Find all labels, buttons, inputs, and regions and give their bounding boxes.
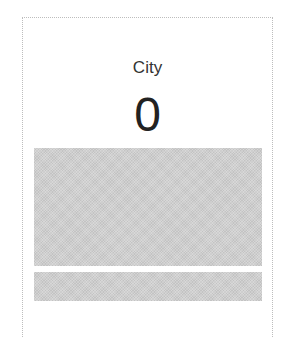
card-title: City <box>23 58 272 78</box>
bar-placeholder <box>34 272 262 301</box>
card-value: 0 <box>23 86 272 144</box>
image-placeholder <box>34 148 262 266</box>
city-stat-card: City 0 <box>22 17 273 337</box>
